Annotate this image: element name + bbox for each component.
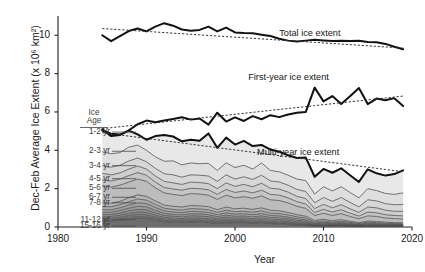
age-label: 15-16 yr (56, 221, 110, 230)
series-annotation: Multi-year ice extent (257, 147, 339, 157)
y-tick-label: 8 (24, 67, 50, 78)
y-tick-label: 4 (24, 144, 50, 155)
x-tick-label: 2020 (392, 233, 425, 244)
trend-line (102, 29, 403, 49)
y-tick-label: 6 (24, 105, 50, 116)
y-tick-label: 10 (24, 29, 50, 40)
x-axis-title: Year (0, 253, 425, 265)
y-tick-label: 2 (24, 182, 50, 193)
data-line (102, 88, 403, 137)
x-tick-label: 1980 (38, 233, 78, 244)
age-label: 1-2 yr (56, 127, 110, 136)
y-tick-label: 0 (24, 221, 50, 232)
age-label: 3-4 yr (56, 161, 110, 170)
x-tick-label: 2000 (215, 233, 255, 244)
series-annotation: First-year ice extent (248, 72, 329, 82)
trend-line (102, 96, 403, 129)
age-label: 5-6 yr (56, 183, 110, 192)
age-label: 4-5 yr (56, 174, 110, 183)
x-tick-label: 1990 (127, 233, 167, 244)
figure: Dec-Feb Average Ice Extent (x 10⁶ km²) Y… (0, 0, 425, 272)
age-label: 7-8 yr (56, 198, 110, 207)
legend-header-age: Age (77, 116, 111, 125)
age-label: 2-3 yr (56, 146, 110, 155)
x-tick-label: 2010 (304, 233, 344, 244)
series-annotation: Total ice extent (279, 28, 340, 38)
